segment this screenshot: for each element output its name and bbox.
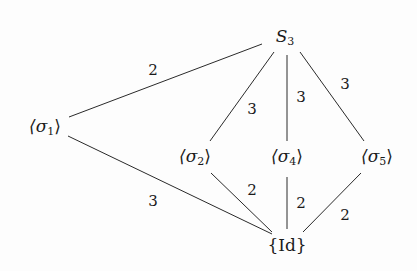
edges-layer (0, 0, 417, 271)
edge-index-label: 3 (247, 100, 257, 118)
edge-index-label: 2 (247, 181, 257, 199)
edge-s5-Id (303, 173, 361, 232)
edge-index-label: 3 (340, 75, 350, 93)
edge-index-label: 2 (340, 206, 350, 224)
node-s1: ⟨σ1⟩ (29, 116, 61, 138)
edge-index-label: 3 (148, 192, 158, 210)
edge-S3-s2 (210, 52, 274, 141)
edge-s1-Id (68, 136, 272, 234)
edge-s2-Id (211, 173, 272, 232)
subgroup-lattice-diagram: S3⟨σ1⟩⟨σ2⟩⟨σ4⟩⟨σ5⟩{Id} 23333222 (0, 0, 417, 271)
edge-index-label: 3 (296, 88, 306, 106)
edge-index-label: 2 (296, 194, 306, 212)
node-s2: ⟨σ2⟩ (179, 146, 211, 168)
node-Id: {Id} (267, 235, 306, 255)
edge-S3-s5 (300, 52, 364, 141)
node-s5: ⟨σ5⟩ (361, 146, 393, 168)
edge-S3-s1 (69, 44, 262, 117)
node-S3: S3 (276, 26, 295, 48)
node-s4: ⟨σ4⟩ (271, 146, 303, 168)
edge-index-label: 2 (148, 61, 158, 79)
